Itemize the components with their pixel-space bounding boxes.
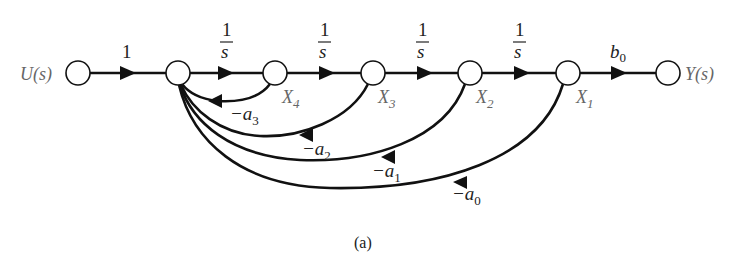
input-label: U(s): [20, 64, 52, 85]
node-x2: [458, 61, 482, 85]
gain-x4-x3: 1 s: [318, 19, 331, 62]
svg-text:s: s: [221, 41, 228, 62]
arrow-icon: [208, 94, 222, 108]
svg-text:1: 1: [320, 19, 330, 40]
gain-x1-y: b0: [610, 41, 626, 65]
x1-label: X1: [575, 87, 594, 111]
node-x4: [263, 61, 287, 85]
feedback-paths: [179, 84, 563, 189]
gain-n1-x4: 1 s: [220, 19, 233, 62]
node-y: [656, 61, 680, 85]
gain-a1: −a1: [372, 160, 401, 185]
x2-label: X2: [475, 87, 494, 111]
figure-caption: (a): [354, 234, 372, 252]
x4-label: X4: [281, 87, 300, 111]
svg-text:s: s: [417, 41, 424, 62]
x3-label: X3: [377, 87, 396, 111]
svg-text:s: s: [514, 41, 521, 62]
svg-text:1: 1: [418, 19, 428, 40]
svg-text:1: 1: [515, 19, 525, 40]
node-n1: [166, 61, 190, 85]
svg-text:s: s: [319, 41, 326, 62]
gain-u-n1: 1: [122, 41, 132, 62]
arrow-icon: [514, 66, 530, 80]
signal-flow-graph: U(s) Y(s) X4 X3 X2 X1 1 1 s 1 s 1 s 1 s …: [0, 0, 730, 275]
output-label: Y(s): [685, 64, 714, 85]
svg-text:1: 1: [222, 19, 232, 40]
node-u: [66, 61, 90, 85]
arrow-icon: [218, 66, 234, 80]
arrow-icon: [417, 66, 433, 80]
arrow-icon: [319, 66, 335, 80]
node-x1: [556, 61, 580, 85]
gain-a3: −a3: [230, 103, 259, 128]
edge-x4-n1: [182, 84, 270, 101]
arrow-icon: [120, 66, 136, 80]
node-x3: [361, 61, 385, 85]
gain-a0: −a0: [452, 183, 481, 208]
arrow-icon: [611, 66, 627, 80]
gain-x3-x2: 1 s: [416, 19, 429, 62]
gain-x2-x1: 1 s: [513, 19, 526, 62]
